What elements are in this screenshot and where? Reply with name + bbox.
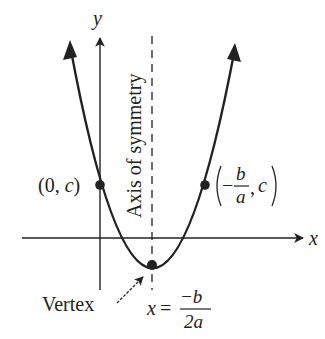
svg-text:a: a: [236, 186, 246, 207]
svg-text:=: =: [160, 297, 171, 319]
svg-text:,: ,: [250, 176, 255, 198]
svg-text:2a: 2a: [184, 311, 203, 332]
axis-of-symmetry-label: Axis of symmetry: [123, 74, 146, 218]
vertex-point: [147, 260, 157, 270]
y-intercept-label: (0, c): [38, 174, 80, 197]
curve-arrow-right-icon: [227, 43, 241, 62]
svg-text:−: −: [222, 174, 233, 196]
vertex-pointer-arrow: [117, 277, 143, 303]
svg-text:x: x: [146, 297, 156, 319]
vertex-label: Vertex: [42, 293, 94, 315]
mirror-point: [200, 180, 210, 190]
curve-arrow-left-icon: [63, 40, 77, 60]
y-axis-label: y: [91, 7, 102, 30]
mirror-point-label: − b a , c: [217, 163, 276, 207]
svg-text:−b: −b: [180, 286, 202, 307]
vertex-equation: x = −b 2a: [146, 286, 211, 332]
svg-text:c: c: [258, 174, 267, 196]
y-intercept-point: [95, 180, 105, 190]
x-axis-label: x: [308, 227, 318, 249]
svg-text:b: b: [236, 163, 246, 184]
parabola-diagram: x y Axis of symmetry (0, c) − b a , c Ve…: [0, 0, 325, 339]
